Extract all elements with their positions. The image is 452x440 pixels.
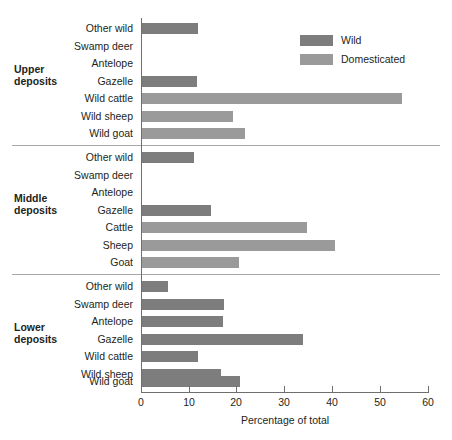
x-tick-30 [284, 386, 285, 393]
y-axis-line [141, 18, 142, 392]
x-tick-label-20: 20 [221, 396, 251, 408]
bar-upper-other-wild [142, 23, 198, 34]
table-row: Swamp deer [0, 38, 452, 56]
x-tick-label-60: 60 [413, 396, 443, 408]
bar-lower-other-wild [142, 281, 168, 292]
table-row: Wild goat [0, 125, 452, 143]
x-tick-label-0: 0 [126, 396, 156, 408]
bar-upper-gazelle [142, 76, 197, 87]
bar-upper-wild-goat [142, 128, 245, 139]
bar-lower-gazelle [142, 334, 303, 345]
x-tick-60 [428, 386, 429, 393]
bar-lower-wild-goat [142, 376, 240, 387]
table-row: Gazelle [0, 202, 452, 220]
table-row: Antelope [0, 184, 452, 202]
table-row: Other wild [0, 278, 452, 296]
group-separator-middle-lower [12, 274, 440, 275]
bar-chart-figure: Wild Domesticated Upper deposits Other w… [0, 0, 452, 440]
table-row: Wild cattle [0, 90, 452, 108]
x-axis-title: Percentage of total [141, 414, 429, 426]
table-row: Cattle [0, 219, 452, 237]
group-separator-upper-middle [12, 145, 440, 146]
table-row: Wild cattle [0, 348, 452, 366]
x-tick-0 [141, 386, 142, 393]
table-row: Swamp deer [0, 296, 452, 314]
table-row: Sheep [0, 237, 452, 255]
table-row: Wild goat [0, 373, 452, 391]
bar-lower-antelope [142, 316, 223, 327]
x-tick-label-50: 50 [365, 396, 395, 408]
table-row: Goat [0, 254, 452, 272]
x-tick-label-30: 30 [269, 396, 299, 408]
bar-middle-gazelle [142, 205, 211, 216]
x-tick-10 [189, 386, 190, 393]
x-tick-label-40: 40 [317, 396, 347, 408]
bar-middle-goat [142, 257, 239, 268]
x-tick-50 [380, 386, 381, 393]
x-tick-40 [332, 386, 333, 393]
bar-upper-wild-cattle [142, 93, 402, 104]
table-row: Other wild [0, 149, 452, 167]
table-row: Antelope [0, 55, 452, 73]
bar-middle-sheep [142, 240, 335, 251]
table-row: Other wild [0, 20, 452, 38]
x-tick-label-10: 10 [174, 396, 204, 408]
table-row: Gazelle [0, 73, 452, 91]
table-row: Wild sheep [0, 108, 452, 126]
bar-middle-other-wild [142, 152, 194, 163]
bar-lower-wild-cattle [142, 351, 198, 362]
table-row: Antelope [0, 313, 452, 331]
bar-lower-swamp-deer [142, 299, 224, 310]
x-tick-20 [236, 386, 237, 393]
bar-upper-wild-sheep [142, 111, 233, 122]
table-row: Gazelle [0, 331, 452, 349]
table-row: Swamp deer [0, 167, 452, 185]
bar-middle-cattle [142, 222, 307, 233]
x-axis-line [141, 392, 429, 393]
